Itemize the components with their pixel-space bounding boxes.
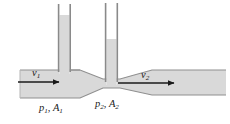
venturi-tube-figure: v1 v2 p1, A1 p2, A2 — [0, 0, 230, 124]
label-pressure-area-1: p1, A1 — [39, 103, 63, 115]
label-velocity-2: v2 — [141, 70, 149, 82]
standpipe-right-liquid — [107, 39, 117, 85]
area-2-subscript: 2 — [115, 103, 119, 111]
standpipe-left-liquid — [60, 15, 70, 74]
label-pressure-area-2: p2, A2 — [95, 99, 119, 111]
pipe-body — [20, 70, 226, 98]
area-1-subscript: 1 — [59, 107, 63, 115]
velocity-2-subscript: 2 — [146, 74, 150, 82]
label-velocity-1: v1 — [32, 68, 40, 80]
velocity-1-subscript: 1 — [37, 72, 41, 80]
